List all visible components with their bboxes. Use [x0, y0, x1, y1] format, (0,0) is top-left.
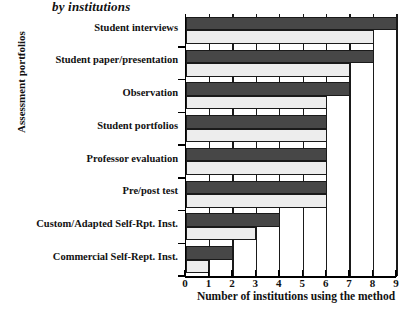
y-tick-4: [178, 177, 185, 179]
x-tick-label-5: 5: [292, 277, 312, 289]
y-tick-3: [178, 144, 185, 146]
gridline-9: [396, 14, 398, 276]
y-tick-label-2: Observation: [0, 87, 178, 98]
bar-light-6: [186, 227, 256, 241]
bar-dark-2: [186, 82, 350, 96]
bar-dark-5: [186, 181, 327, 195]
bar-dark-3: [186, 115, 327, 129]
bar-light-1: [186, 63, 350, 77]
x-tick-label-6: 6: [316, 277, 336, 289]
bar-light-3: [186, 129, 327, 143]
y-tick-label-6: Custom/Adapted Self-Rpt. Inst.: [0, 218, 178, 229]
bar-light-2: [186, 96, 327, 110]
bar-light-5: [186, 194, 327, 208]
bar-light-0: [186, 30, 374, 44]
y-tick-label-1: Student paper/presentation: [0, 54, 178, 65]
chart-title: by institutions: [52, 0, 131, 15]
y-tick-label-0: Student interviews: [0, 22, 178, 33]
y-tick-0: [178, 46, 185, 48]
x-tick-label-9: 9: [386, 277, 403, 289]
bar-dark-1: [186, 50, 374, 64]
y-tick-label-3: Student portfolios: [0, 120, 178, 131]
bar-dark-7: [186, 246, 233, 260]
y-tick-2: [178, 112, 185, 114]
y-tick-label-4: Professor evaluation: [0, 153, 178, 164]
x-tick-label-2: 2: [222, 277, 242, 289]
plot-inner: [186, 14, 396, 276]
x-tick-label-0: 0: [175, 277, 195, 289]
bar-light-4: [186, 161, 327, 175]
y-tick-6: [178, 243, 185, 245]
x-tick-label-7: 7: [339, 277, 359, 289]
x-tick-8: [372, 270, 374, 277]
x-tick-label-4: 4: [269, 277, 289, 289]
x-tick-label-1: 1: [198, 277, 218, 289]
x-tick-1: [208, 270, 210, 277]
x-tick-3: [255, 270, 257, 277]
x-tick-4: [278, 270, 280, 277]
x-tick-label-3: 3: [245, 277, 265, 289]
x-tick-2: [231, 270, 233, 277]
bar-light-7: [186, 260, 209, 274]
plot-area: [185, 14, 396, 276]
y-tick-label-5: Pre/post test: [0, 185, 178, 196]
x-tick-label-8: 8: [363, 277, 383, 289]
x-tick-7: [348, 270, 350, 277]
x-tick-5: [302, 270, 304, 277]
x-tick-9: [395, 270, 397, 277]
bar-dark-4: [186, 148, 327, 162]
y-tick-1: [178, 79, 185, 81]
bar-dark-0: [186, 17, 397, 31]
y-axis-tick-labels: Student interviewsStudent paper/presenta…: [0, 14, 182, 276]
y-tick-7: [178, 275, 185, 277]
y-tick-5: [178, 210, 185, 212]
x-axis-title: Number of institutions using the method: [196, 290, 396, 302]
bar-dark-6: [186, 213, 280, 227]
x-tick-6: [325, 270, 327, 277]
y-tick-label-7: Commercial Self-Rept. Inst.: [0, 251, 178, 262]
